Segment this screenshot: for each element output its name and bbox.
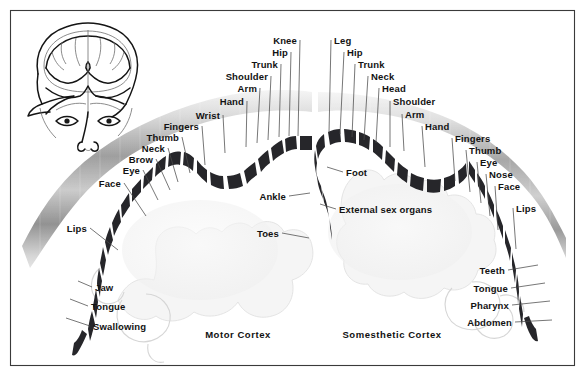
somesthetic-soft-shade [328,184,472,280]
label-arm: Arm [405,109,424,120]
label-teeth: Teeth [480,265,505,276]
label-pharynx: Pharynx [470,300,509,311]
label-wrist: Wrist [196,110,221,121]
label-trunk: Trunk [251,59,278,70]
caption-motor-cortex: Motor Cortex [205,329,271,340]
label-leg: Leg [334,35,351,46]
label-lips: Lips [516,203,536,214]
label-shoulder: Shoulder [226,71,269,82]
cortical-map-svg: LipsFaceEyeBrowNeckThumbFingersWristHand… [0,0,585,376]
label-eye: Eye [123,165,140,176]
label-neck: Neck [371,71,395,82]
label-knee: Knee [273,35,297,46]
label-hip: Hip [272,47,288,58]
label-toes: Toes [257,228,279,239]
label-fingers: Fingers [164,121,199,132]
label-thumb: Thumb [147,132,179,143]
caption-somesthetic-cortex: Somesthetic Cortex [342,329,441,340]
label-jaw: Jaw [95,282,114,293]
label-arm: Arm [238,83,257,94]
label-swallowing: Swallowing [93,321,146,332]
label-face: Face [498,181,520,192]
label-external-sex-organs: External sex organs [339,204,432,215]
label-hand: Hand [220,96,244,107]
label-tongue: Tongue [91,301,126,312]
label-lips: Lips [67,223,87,234]
label-foot: Foot [346,167,368,178]
label-hip: Hip [347,47,363,58]
label-trunk: Trunk [358,59,385,70]
label-abdomen: Abdomen [467,317,512,328]
homunculus-figure: LipsFaceEyeBrowNeckThumbFingersWristHand… [0,0,585,376]
label-hand: Hand [425,121,449,132]
label-tongue: Tongue [474,283,509,294]
label-ankle: Ankle [259,191,286,202]
label-neck: Neck [142,143,166,154]
label-face: Face [99,178,121,189]
label-head: Head [382,83,406,94]
label-shoulder: Shoulder [393,96,436,107]
label-nose: Nose [489,169,513,180]
label-thumb: Thumb [469,145,501,156]
label-brow: Brow [129,154,154,165]
label-eye: Eye [480,157,497,168]
label-fingers: Fingers [455,133,490,144]
